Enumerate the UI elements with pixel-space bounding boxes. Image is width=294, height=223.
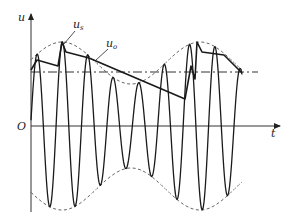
origin-label: O — [17, 121, 26, 132]
x-axis-label: t — [271, 128, 275, 139]
input-signal-label: us — [73, 19, 84, 32]
us-leader-line — [64, 31, 75, 44]
envelope-detector-diagram — [0, 0, 294, 223]
output-signal-label: uo — [106, 38, 117, 51]
y-axis-label: u — [18, 12, 25, 23]
lower-envelope — [31, 168, 242, 210]
